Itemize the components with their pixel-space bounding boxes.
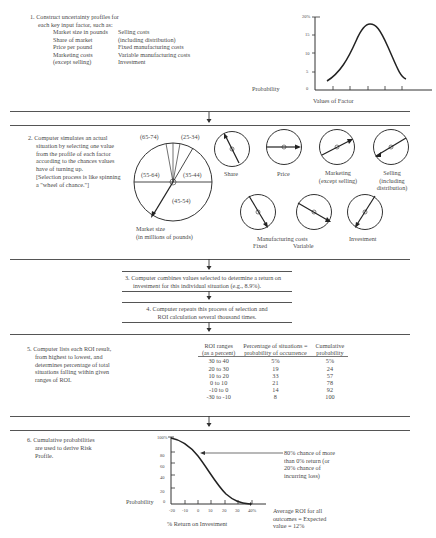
table-row: 30 to 405%5% (198, 357, 348, 365)
header-cumulative: Cumulativeprobability (311, 342, 348, 357)
fixed-cost-wheel-icon (239, 193, 277, 231)
marketing-label: Marketing (except selling) (318, 169, 358, 184)
factor-item: Variable manufacturing costs (118, 51, 190, 59)
factor-item: Price per pound (53, 43, 108, 51)
x-axis-label: % Return on Investment (167, 520, 227, 528)
y-tick-label: 10 (305, 50, 310, 58)
step5-line: determines percentage of total (27, 361, 111, 369)
cell: 5% (311, 357, 348, 365)
x-axis-label: Values of Factor (313, 97, 354, 105)
note-line: value = 12% (273, 522, 326, 530)
step6-line: are used to derive Risk (27, 444, 95, 452)
x-tick-label: 20 (222, 507, 227, 515)
y-axis-label: Probability (252, 85, 280, 93)
table-row: 20 to 301924 (198, 365, 348, 372)
x-tick-label: -10 (182, 507, 188, 515)
cell: 78 (311, 379, 348, 386)
step6-text: 6. Cumulative probabilities are used to … (27, 436, 95, 459)
cell: 21 (239, 379, 311, 386)
cell: 30 to 40 (198, 357, 239, 365)
wheel-label-line: Market size (136, 225, 193, 233)
step1-factors-right: Selling costs (including distribution) F… (118, 28, 190, 66)
wheel-segment-label: (65-74) (140, 133, 159, 141)
cell: 10 to 20 (198, 372, 239, 379)
wheel-segment-label: (45-54) (172, 197, 191, 205)
factor-item: Investment (118, 58, 190, 66)
step2-text: 2. Computer simulates an actual situatio… (28, 134, 121, 189)
step2-line: 2. Computer simulates an actual (28, 134, 121, 142)
x-tick-label: 30 (235, 507, 240, 515)
risk-profile-plot (168, 436, 268, 516)
wheel-segment-label: (25-34) (181, 133, 200, 141)
x-tick-label: 10 (208, 507, 213, 515)
label-line: Marketing (318, 169, 358, 177)
wheel-label: Market size (in millions of pounds) (136, 225, 193, 240)
manufacturing-fixed-label: Fixed (253, 242, 267, 250)
step3-text: 3. Computer combines values selected to … (125, 274, 281, 289)
price-wheel-icon (265, 128, 303, 166)
factor-item: Market size in pounds (53, 28, 108, 36)
label-line: distribution) (370, 184, 414, 192)
step2-line: according to the chances values (28, 157, 121, 165)
note-line: outcomes = Expected (273, 515, 326, 523)
flow-arrow-icon (206, 322, 212, 334)
share-wheel-icon (213, 130, 251, 168)
x-tick-label: 40% (248, 507, 256, 515)
y-tick-label: 5 (306, 68, 308, 76)
step5-line: from highest to lowest, and (27, 353, 111, 361)
wheel-segment-label: (35-44) (183, 171, 202, 179)
step2-line: have of turning up. (28, 165, 121, 173)
factor-item: (including distribution) (118, 36, 190, 44)
y-tick-label: 20 (160, 488, 165, 496)
flow-arrow-icon (206, 112, 212, 124)
divider (10, 125, 410, 126)
step3-line: 3. Computer combines values selected to … (125, 274, 281, 282)
cell: 5% (239, 357, 311, 365)
cell: -10 to 0 (198, 386, 239, 393)
step6-line: 6. Cumulative probabilities (27, 436, 95, 444)
y-axis-label: Probability (126, 498, 154, 506)
header-percentage: Percentage of situations =probability of… (239, 342, 311, 357)
cell: 20 to 30 (198, 365, 239, 372)
label-line: (except selling) (318, 177, 358, 185)
wheel-of-chance-icon (131, 140, 215, 224)
step1-factors-left: Market size in pounds Share of market Pr… (53, 28, 108, 66)
wheel-segment-label: (55-64) (141, 171, 160, 179)
step2-line: situation by selecting one value (28, 142, 121, 150)
header-roi-ranges: ROI ranges(as a percent) (198, 342, 239, 357)
cell: 14 (239, 386, 311, 393)
divider (10, 334, 410, 335)
risk-annotation: 80% chance of more than 0% return (or 20… (284, 449, 335, 479)
manufacturing-variable-label: Variable (293, 242, 314, 250)
y-tick-label: 0 (163, 498, 165, 506)
divider (10, 430, 410, 431)
cell: 24 (311, 365, 348, 372)
price-label: Price (277, 170, 290, 178)
step2-line: from the profile of each factor (28, 150, 121, 158)
y-tick-label: 100% (157, 434, 168, 442)
factor-item: Share of market (53, 36, 108, 44)
cell: 100 (311, 393, 348, 400)
y-tick-label: 40 (160, 474, 165, 482)
x-tick-label: 0 (197, 507, 199, 515)
table-row: 0 to 102178 (198, 379, 348, 386)
table-row: -30 to -108100 (198, 393, 348, 400)
annotation-line: than 0% return (or (284, 457, 335, 465)
y-tick-label: 60 (160, 463, 165, 471)
table-header-row: ROI ranges(as a percent) Percentage of s… (198, 342, 348, 357)
step5-line: ranges of ROI. (27, 376, 111, 384)
flow-arrow-icon (206, 259, 212, 271)
note-line: Average ROI for all (273, 507, 326, 515)
expected-value-note: Average ROI for all outcomes = Expected … (273, 507, 326, 530)
step3-line: investment for this individual situation… (125, 282, 281, 290)
cell: 0 to 10 (198, 379, 239, 386)
uncertainty-curve-plot (310, 15, 436, 95)
y-tick-label: 15 (305, 31, 310, 39)
y-tick-label: 80 (160, 452, 165, 460)
factor-item: (except selling) (53, 58, 108, 66)
step6-line: Profile. (27, 452, 95, 460)
step5-line: situations falling within given (27, 368, 111, 376)
y-tick-label: 20% (302, 13, 310, 21)
wheel-label-line: (in millions of pounds) (136, 233, 193, 241)
y-tick-label: 0 (306, 85, 308, 93)
